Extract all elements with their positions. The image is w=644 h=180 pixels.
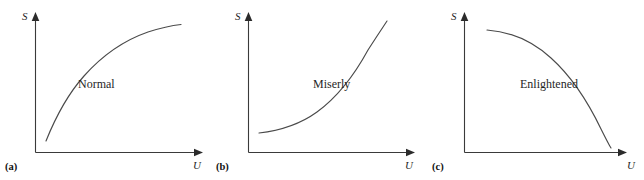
panel-a: S U Normal (a) [0, 0, 215, 180]
panel-letter-c: (c) [432, 161, 444, 173]
y-axis-label-b: S [235, 10, 241, 22]
y-axis-arrow-b [245, 12, 253, 21]
x-axis-arrow-a [194, 149, 203, 157]
x-axis-label-c: U [627, 159, 636, 171]
curve-label-normal: Normal [78, 77, 115, 91]
y-axis-arrow-c [461, 12, 469, 21]
y-axis-arrow-a [32, 12, 40, 21]
curve-label-miserly: Miserly [313, 77, 350, 91]
figure-panels-container: S U Normal (a) S U Miserly (b) [0, 0, 644, 180]
x-axis-arrow-b [406, 149, 415, 157]
y-axis-label-c: S [451, 10, 457, 22]
panel-letter-a: (a) [5, 161, 18, 173]
axes-a [32, 12, 203, 156]
curve-label-enlightened: Enlightened [520, 77, 578, 91]
x-axis-label-b: U [405, 159, 414, 171]
y-axis-label-a: S [22, 10, 28, 22]
panel-c: S U Enlightened (c) [429, 0, 644, 180]
x-axis-label-a: U [193, 159, 202, 171]
panel-b: S U Miserly (b) [215, 0, 430, 180]
panel-letter-b: (b) [216, 161, 229, 173]
x-axis-arrow-c [618, 149, 627, 157]
